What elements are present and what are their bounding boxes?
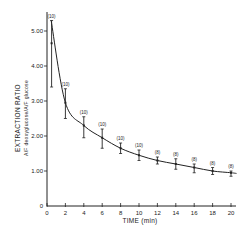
mean-marker <box>138 154 140 156</box>
y-tick-label: 4.00 <box>31 63 43 69</box>
x-tick-label: 4 <box>82 210 86 216</box>
x-tick-label: 16 <box>191 210 198 216</box>
y-tick-label: 5.00 <box>31 28 43 34</box>
x-tick-label: 14 <box>172 210 179 216</box>
data-point: (10) <box>135 143 144 161</box>
data-point: (10) <box>117 136 126 154</box>
mean-marker <box>212 170 214 172</box>
mean-marker <box>64 102 66 104</box>
n-label: (8) <box>191 157 197 162</box>
n-label: (10) <box>61 82 70 87</box>
n-label: (10) <box>117 136 126 141</box>
data-point: (8) <box>228 164 234 176</box>
data-point: (8) <box>191 157 197 173</box>
x-tick-label: 6 <box>101 210 105 216</box>
data-point: (8) <box>173 152 179 170</box>
y-axis-title: EXTRACTION RATIO <box>14 84 21 152</box>
n-label: (10) <box>80 110 89 115</box>
mean-marker <box>230 172 232 174</box>
n-label: (8) <box>155 150 161 155</box>
n-label: (8) <box>210 161 216 166</box>
n-label: (8) <box>173 152 179 157</box>
decay-curve <box>51 21 236 174</box>
extraction-ratio-chart: 0246810121416182001.002.003.004.005.00 (… <box>0 0 251 231</box>
axes: 0246810121416182001.002.003.004.005.00 <box>31 12 236 216</box>
x-tick-label: 0 <box>45 210 49 216</box>
x-tick-label: 2 <box>64 210 68 216</box>
x-tick-label: 12 <box>154 210 161 216</box>
n-label: (8) <box>228 164 234 169</box>
mean-marker <box>83 125 85 127</box>
y-axis-subtitle: A/F deoxyglucose/A/F glucose <box>23 80 29 156</box>
x-tick-label: 8 <box>119 210 123 216</box>
mean-marker <box>120 147 122 149</box>
mean-marker <box>193 167 195 169</box>
n-label: (10) <box>135 143 144 148</box>
data-point: (10) <box>98 122 107 148</box>
data-point: (8) <box>155 150 161 164</box>
data-point: (8) <box>210 161 216 175</box>
fit-curve <box>51 21 236 174</box>
y-tick-label: 0 <box>40 203 44 209</box>
data-point: (10) <box>61 82 70 119</box>
mean-marker <box>175 163 177 165</box>
mean-marker <box>156 160 158 162</box>
y-tick-label: 3.00 <box>31 98 43 104</box>
mean-marker <box>51 42 53 44</box>
n-label: (10) <box>98 122 107 127</box>
x-axis-title: TIME (min) <box>122 217 157 225</box>
y-tick-label: 2.00 <box>31 133 43 139</box>
data-point: (10) <box>48 14 57 88</box>
x-tick-label: 18 <box>209 210 216 216</box>
y-tick-label: 1.00 <box>31 168 43 174</box>
data-points: (10)(10)(10)(10)(10)(10)(8)(8)(8)(8)(8) <box>48 14 235 177</box>
mean-marker <box>101 137 103 139</box>
n-label: (10) <box>48 14 57 19</box>
x-tick-label: 20 <box>228 210 235 216</box>
x-tick-label: 10 <box>136 210 143 216</box>
